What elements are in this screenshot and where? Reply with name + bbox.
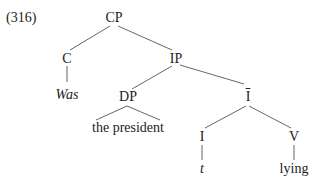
edge-cp-c [70, 26, 110, 50]
node-c: C [62, 52, 71, 66]
node-lying: lying [280, 162, 309, 176]
node-v: V [289, 130, 299, 144]
edge-dp-left [96, 106, 127, 120]
node-i: I [200, 130, 205, 144]
node-was: Was [56, 88, 79, 102]
edge-ip-ibar [180, 65, 244, 84]
node-dp: DP [119, 90, 137, 104]
node-cp: CP [105, 11, 122, 25]
node-ip: IP [170, 52, 182, 66]
edge-ibar-v [249, 106, 291, 128]
edge-ip-dp [132, 66, 172, 89]
edge-dp-right [127, 106, 160, 120]
edge-cp-ip [118, 26, 172, 50]
edge-ibar-i [205, 106, 246, 128]
tree-edges [0, 0, 316, 178]
node-trace-t: t [200, 162, 204, 176]
node-i-bar: I [246, 90, 251, 104]
node-the-president: the president [92, 121, 164, 135]
